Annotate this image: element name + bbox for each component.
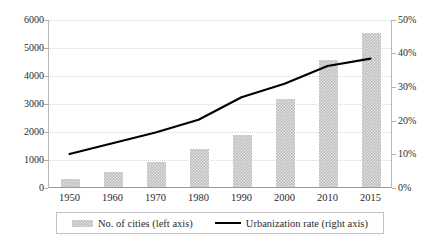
right-axis-tick-label: 10% (398, 149, 438, 159)
left-axis-tick-label: 3000 (0, 99, 44, 109)
x-axis-tick-label: 2010 (306, 192, 350, 203)
right-axis-tickmark (392, 154, 396, 155)
left-axis-tick-label: 0 (0, 183, 44, 193)
left-axis-tick-label: 5000 (0, 43, 44, 53)
line-series (48, 20, 392, 188)
left-axis-tick-label: 2000 (0, 127, 44, 137)
urbanization-rate-line (70, 59, 371, 155)
x-axis-tick-label: 2015 (349, 192, 393, 203)
right-axis-tick-label: 30% (398, 82, 438, 92)
x-axis-tick-label: 2000 (263, 192, 307, 203)
legend-label-line: Urbanization rate (right axis) (246, 218, 368, 229)
left-axis-tick-label: 6000 (0, 15, 44, 25)
left-axis-tick-label: 1000 (0, 155, 44, 165)
legend-label-bars: No. of cities (left axis) (98, 218, 193, 229)
x-axis-tick-label: 1970 (134, 192, 178, 203)
right-axis-tick-label: 50% (398, 15, 438, 25)
right-axis-tick-label: 40% (398, 48, 438, 58)
x-axis-tick-label: 1960 (91, 192, 135, 203)
right-axis-tickmark (392, 53, 396, 54)
right-axis-tickmark (392, 188, 396, 189)
right-axis-tickmark (392, 20, 396, 21)
legend-item-line: Urbanization rate (right axis) (215, 218, 368, 229)
x-axis-tick-label: 1980 (177, 192, 221, 203)
left-axis-tickmark (44, 188, 48, 189)
right-axis-tick-label: 0% (398, 183, 438, 193)
left-axis-tick-label: 4000 (0, 71, 44, 81)
chart-legend: No. of cities (left axis) Urbanization r… (56, 212, 384, 234)
right-axis-tick-label: 20% (398, 116, 438, 126)
x-axis-tick-label: 1990 (220, 192, 264, 203)
bar-swatch-icon (72, 220, 93, 227)
right-axis-tickmark (392, 87, 396, 88)
right-axis-tickmark (392, 121, 396, 122)
legend-item-bars: No. of cities (left axis) (72, 218, 193, 229)
chart-container: 6000 5000 4000 3000 2000 1000 0 50% 40% … (0, 0, 439, 247)
line-swatch-icon (215, 222, 241, 224)
x-axis-tick-label: 1950 (48, 192, 92, 203)
